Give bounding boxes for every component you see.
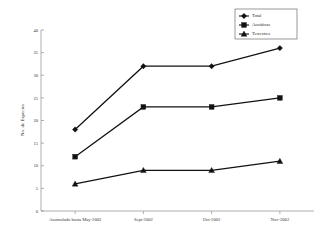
y-tick-label-group: 0510152025303540 [33,28,38,214]
data-point [209,105,214,110]
y-tick-label: 35 [33,50,38,55]
data-point [277,95,282,100]
data-point [209,64,214,69]
x-axis: Acumulado hasta May-2002Sept-2002Oct-200… [41,211,314,222]
data-point [277,45,282,50]
y-tick-label: 25 [33,96,38,101]
series-group [72,45,283,186]
series-total [72,45,282,132]
series-line [75,98,280,157]
y-tick-label: 30 [33,73,38,78]
y-tick-label: 10 [33,163,38,168]
legend-label: Total [252,13,262,18]
x-tick-label: Acumulado hasta May-2002 [49,217,102,222]
x-tick-label: Oct-2002 [203,217,221,222]
y-tick-label: 40 [33,28,38,33]
line-chart: 0510152025303540 No. de Especies Acumula… [0,0,323,236]
x-tick-group [75,211,280,214]
y-tick-label: 15 [33,141,38,146]
series-line [75,48,280,129]
chart-canvas: 0510152025303540 No. de Especies Acumula… [0,0,323,236]
y-tick-label: 20 [33,118,38,123]
x-tick-label: Nov-2002 [271,217,290,222]
series-line [75,161,280,184]
x-tick-label-group: Acumulado hasta May-2002Sept-2002Oct-200… [49,217,290,222]
legend-swatch-marker [242,23,247,28]
y-axis-title: No. de Especies [20,104,25,136]
x-tick-label: Sept-2002 [134,217,154,222]
data-point [73,154,78,159]
y-axis: 0510152025303540 No. de Especies [20,28,44,214]
chart-legend: TotalAcuáticasTerrestres [235,9,297,39]
data-point [141,105,146,110]
y-tick-group [41,30,44,211]
legend-label: Acuáticas [252,22,270,27]
series-acuáticas [73,95,283,159]
series-terrestres [72,158,283,186]
y-tick-label: 0 [36,209,39,214]
legend-label: Terrestres [252,31,270,36]
y-tick-label: 5 [36,186,39,191]
